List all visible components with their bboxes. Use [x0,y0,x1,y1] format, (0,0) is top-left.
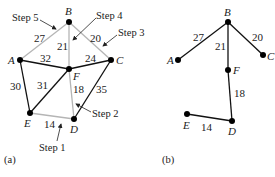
node-label-e: E [182,119,190,131]
weight-f-d: 18 [73,83,85,95]
node-d [71,116,77,122]
weight-b-c: 20 [252,31,264,43]
weight-b-a: 27 [34,32,46,44]
node-c [260,52,266,58]
step-2-arrow [76,104,91,112]
step-5-label: Step 5 [12,12,39,23]
edge-a-e [20,60,30,113]
node-e [27,110,33,116]
step-5-arrow [40,20,56,29]
node-a [17,57,23,63]
node-label-c: C [267,50,275,62]
edge-f-d [228,70,232,121]
caption-b: (b) [162,154,175,166]
edge-e-f [30,69,69,113]
graph-a: B A C F E D 27 21 20 32 24 30 31 18 35 1… [4,5,145,166]
weight-f-c: 24 [85,52,97,64]
node-label-c: C [116,54,124,66]
caption-a: (a) [4,154,16,166]
step-4-label: Step 4 [96,10,123,21]
node-label-f: F [232,64,240,76]
step-1-label: Step 1 [39,142,66,153]
node-label-b: B [65,5,72,17]
step-2-label: Step 2 [92,108,119,119]
node-a [175,57,181,63]
weight-a-f: 32 [40,52,51,64]
node-label-d: D [227,125,236,137]
graph-b: B A C F E D 27 21 20 18 14 (b) [162,6,275,166]
node-label-a: A [7,54,15,66]
node-label-e: E [23,117,31,129]
mst-diagram: B A C F E D 27 21 20 32 24 30 31 18 35 1… [0,0,275,177]
node-label-f: F [72,70,80,82]
node-label-d: D [69,123,78,135]
weight-a-e: 30 [10,80,22,92]
weight-e-d: 14 [201,121,213,133]
weight-c-d: 35 [96,83,108,95]
node-label-b: B [224,6,231,18]
weight-b-a: 27 [193,31,205,43]
node-b [225,19,231,25]
weight-b-f: 21 [57,40,68,52]
step-1-arrow [57,124,61,141]
weight-e-f: 31 [37,79,48,91]
weight-b-c: 20 [90,32,102,44]
node-b [66,19,72,25]
node-label-a: A [166,54,174,66]
node-c [108,57,114,63]
node-e [184,111,190,117]
node-f [225,67,231,73]
node-f [66,66,72,72]
node-d [229,118,235,124]
edge-e-d [187,114,232,121]
weight-b-f: 21 [215,40,226,52]
weight-e-d: 14 [44,118,56,130]
step-3-arrow [103,35,117,46]
step-3-label: Step 3 [118,27,145,38]
weight-f-d: 18 [234,87,246,99]
